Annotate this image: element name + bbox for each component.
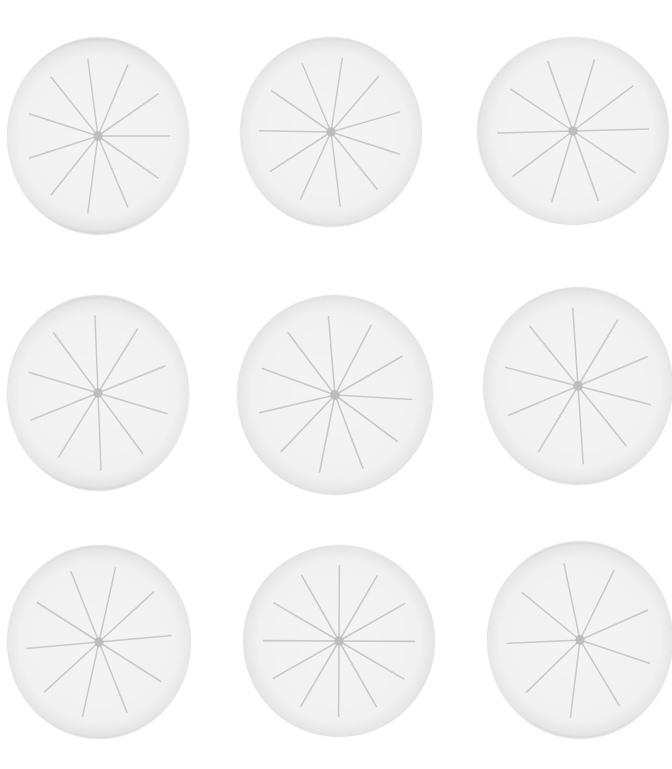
citrus-slice bbox=[488, 542, 672, 738]
citrus-slice bbox=[484, 288, 672, 484]
citrus-slice bbox=[8, 546, 190, 738]
citrus-slice bbox=[8, 296, 188, 490]
citrus-slice bbox=[478, 38, 668, 224]
citrus-slice bbox=[244, 546, 434, 736]
citrus-slice bbox=[8, 38, 188, 234]
citrus-slice bbox=[241, 38, 421, 226]
citrus-slice bbox=[238, 296, 432, 494]
